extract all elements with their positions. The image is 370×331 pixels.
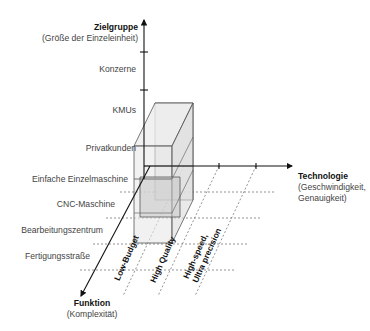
z-axis-title: Funktion (Komplexität) bbox=[62, 298, 122, 320]
x-axis-title: Technologie (Geschwindigkeit, Genauigkei… bbox=[298, 171, 366, 204]
x-axis-subtitle-1: (Geschwindigkeit, bbox=[298, 182, 366, 193]
y-label-privatkunden: Privatkunden bbox=[40, 143, 136, 153]
z-axis-title-main: Funktion bbox=[62, 298, 122, 309]
z-label-cnc: CNC-Maschine bbox=[0, 199, 115, 209]
capability-boxes bbox=[134, 103, 193, 243]
x-axis-title-main: Technologie bbox=[298, 171, 366, 182]
z-label-einzelmaschine: Einfache Einzelmaschine bbox=[0, 174, 128, 184]
diagram-canvas bbox=[0, 0, 370, 331]
y-axis-title-main: Zielgruppe bbox=[20, 22, 138, 33]
y-axis-title: Zielgruppe (Größe der Einzeleinheit) bbox=[20, 22, 138, 44]
z-label-fertigungsstrasse: Fertigungsstraße bbox=[0, 251, 90, 261]
z-label-bearbeitungszentrum: Bearbeitungszentrum bbox=[0, 225, 103, 235]
x-axis-subtitle-2: Genauigkeit) bbox=[298, 193, 366, 204]
y-axis-subtitle: (Größe der Einzeleinheit) bbox=[20, 33, 138, 44]
z-axis-subtitle: (Komplexität) bbox=[62, 309, 122, 320]
y-label-konzerne: Konzerne bbox=[40, 64, 136, 74]
y-label-kmus: KMUs bbox=[40, 105, 136, 115]
